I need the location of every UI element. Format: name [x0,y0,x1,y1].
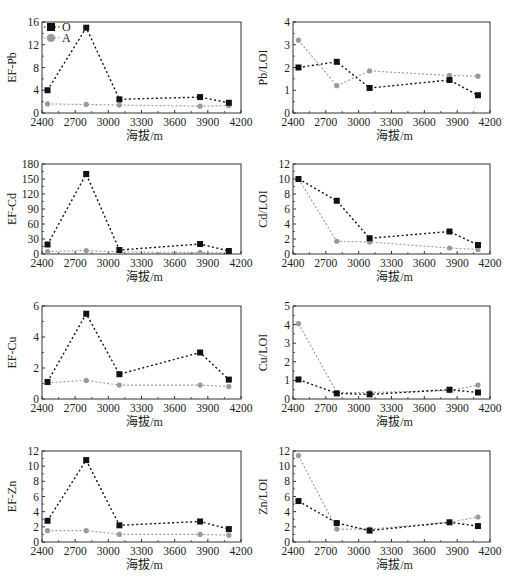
y-tick-label: 30 [28,233,40,245]
series-line-O [299,179,479,245]
x-tick-label: 3000 [347,545,370,557]
x-axis-label: 海拔/m [376,128,413,143]
marker-square [334,390,340,396]
marker-square [334,520,340,526]
legend: OA [44,20,71,45]
marker-circle [84,378,89,383]
x-tick-label: 3900 [196,402,219,414]
panel-ef-zn: 2400270030003300360039004200024681012海拔/… [5,445,253,572]
x-axis-label: 海拔/m [376,414,413,429]
marker-square [83,311,89,317]
panel-pb-loi: 240027003000330036003900420001234海拔/mPb/… [256,16,502,143]
x-tick-label: 3000 [347,116,370,128]
x-tick-label: 3900 [196,116,219,128]
marker-square [334,59,340,65]
panel-ef-pb: 24002700300033003600390042000481216海拔/mE… [5,16,253,143]
marker-square [197,350,203,356]
marker-square [226,377,232,383]
panel-ef-cu: 24002700300033003600390042000246海拔/mEF-C… [5,300,253,429]
legend-label: A [62,31,71,45]
y-axis-label: EF-Pb [5,52,19,83]
series-line-A [299,179,479,250]
x-tick-label: 3300 [130,402,153,414]
y-tick-label: 0 [33,107,39,119]
marker-square [367,85,373,91]
x-tick-label: 4200 [479,116,502,128]
marker-circle [197,250,202,255]
y-axis-label: EF-Cu [5,336,19,368]
y-tick-label: 180 [22,158,40,170]
marker-circle [367,68,372,73]
marker-square [197,241,203,247]
panel-ef-cd: 2400270030003300360039004200030609012015… [5,158,253,284]
x-tick-label: 2700 [64,257,87,269]
series-line-O [48,174,229,251]
x-tick-label: 4200 [230,402,253,414]
y-tick-label: 4 [33,84,39,96]
x-tick-label: 3900 [446,116,469,128]
marker-square [226,248,232,254]
plot-frame [293,306,490,399]
x-tick-label: 4200 [479,402,502,414]
panel-zn-loi: 2400270030003300360039004200024681012海拔/… [256,445,502,572]
marker-square [45,242,51,248]
y-tick-label: 0 [33,536,39,548]
x-tick-label: 2700 [64,402,87,414]
marker-square [197,94,203,100]
marker-square [295,65,301,71]
x-tick-label: 3900 [446,257,469,269]
y-tick-label: 6 [284,203,290,215]
y-tick-label: 8 [284,188,290,200]
y-tick-label: 0 [33,248,39,260]
marker-square [475,389,481,395]
x-tick-label: 3600 [163,116,186,128]
x-tick-label: 2700 [314,402,337,414]
y-tick-label: 4 [284,319,290,331]
x-tick-label: 3900 [196,545,219,557]
x-tick-label: 4200 [230,116,253,128]
x-tick-label: 3000 [97,545,120,557]
plot-frame [293,22,490,113]
y-tick-label: 10 [279,460,291,472]
y-axis-label: Cd/LOI [256,190,270,227]
y-tick-label: 4 [284,16,290,28]
x-tick-label: 3300 [380,257,403,269]
x-axis-label: 海拔/m [126,269,163,284]
y-tick-label: 5 [284,300,290,312]
plot-frame [42,164,241,254]
chart-canvas: 24002700300033003600390042000481216海拔/mE… [0,0,517,585]
y-tick-label: 4 [33,506,39,518]
marker-circle [117,102,122,107]
marker-square [295,176,301,182]
y-tick-label: 1 [284,84,290,96]
y-axis-label: Pb/LOI [256,49,270,85]
x-tick-label: 4200 [479,257,502,269]
y-tick-label: 150 [22,173,40,185]
marker-square [45,518,51,524]
y-tick-label: 0 [284,536,290,548]
x-tick-label: 3000 [347,402,370,414]
panel-cd-loi: 2400270030003300360039004200024681012海拔/… [256,158,502,284]
y-axis-label: EF-Cd [5,193,19,225]
x-tick-label: 4200 [230,257,253,269]
y-tick-label: 8 [33,62,39,74]
y-tick-label: 0 [284,248,290,260]
x-tick-label: 3600 [413,402,436,414]
x-tick-label: 3600 [413,545,436,557]
series-line-O [299,501,479,530]
marker-square [226,526,232,532]
marker-circle [226,533,231,538]
x-tick-label: 4200 [230,545,253,557]
marker-square [83,25,89,31]
legend-square-icon [47,23,55,31]
x-tick-label: 3600 [413,116,436,128]
x-tick-label: 2700 [314,545,337,557]
y-tick-label: 2 [284,356,290,368]
x-tick-label: 3000 [347,257,370,269]
series-line-A [299,324,479,393]
y-tick-label: 1 [284,374,290,386]
y-tick-label: 3 [284,337,290,349]
marker-circle [45,528,50,533]
marker-circle [197,104,202,109]
y-tick-label: 90 [28,203,40,215]
